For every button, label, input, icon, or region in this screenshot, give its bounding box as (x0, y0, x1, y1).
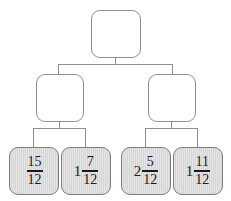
leaf-4-fraction: 11 12 (194, 155, 210, 187)
leaf-4-numerator: 11 (195, 155, 210, 169)
leaf-1-fraction: 15 12 (27, 155, 43, 187)
tree-leaf-4[interactable]: 1 11 12 (173, 147, 223, 195)
leaf-3-whole: 2 (134, 164, 143, 179)
fraction-1-11-12: 1 11 12 (186, 155, 211, 187)
leaf-2-denominator: 12 (82, 173, 98, 187)
fraction-15-12: 15 12 (26, 155, 43, 187)
tree-leaf-3[interactable]: 2 5 12 (121, 147, 171, 195)
fraction-1-7-12: 1 7 12 (74, 155, 99, 187)
tree-leaf-2[interactable]: 1 7 12 (61, 147, 111, 195)
leaf-3-fraction: 5 12 (142, 155, 158, 187)
tree-node-root[interactable] (91, 10, 141, 58)
edge-bus-right-level-2 (145, 128, 198, 129)
edge-bus-to-leaf-1 (33, 128, 34, 147)
leaf-4-whole: 1 (186, 164, 195, 179)
leaf-2-numerator: 7 (86, 155, 95, 169)
leaf-2-whole: 1 (74, 164, 83, 179)
leaf-1-numerator: 15 (27, 155, 43, 169)
tree-leaf-1[interactable]: 15 12 (9, 147, 59, 195)
leaf-1-denominator: 12 (27, 173, 43, 187)
tree-node-middle-left[interactable] (36, 74, 84, 122)
leaf-2-fraction: 7 12 (82, 155, 98, 187)
tree-node-middle-right[interactable] (148, 74, 196, 122)
edge-bus-to-leaf-3 (145, 128, 146, 147)
tree-diagram: 15 12 1 7 12 2 5 12 1 (0, 0, 231, 201)
edge-bus-to-leaf-4 (197, 128, 198, 147)
leaf-3-denominator: 12 (142, 173, 158, 187)
edge-bus-left-level-2 (33, 128, 86, 129)
edge-bus-level-1 (58, 64, 173, 65)
leaf-3-numerator: 5 (146, 155, 155, 169)
leaf-4-denominator: 12 (194, 173, 210, 187)
fraction-2-5-12: 2 5 12 (134, 155, 159, 187)
edge-bus-to-leaf-2 (85, 128, 86, 147)
